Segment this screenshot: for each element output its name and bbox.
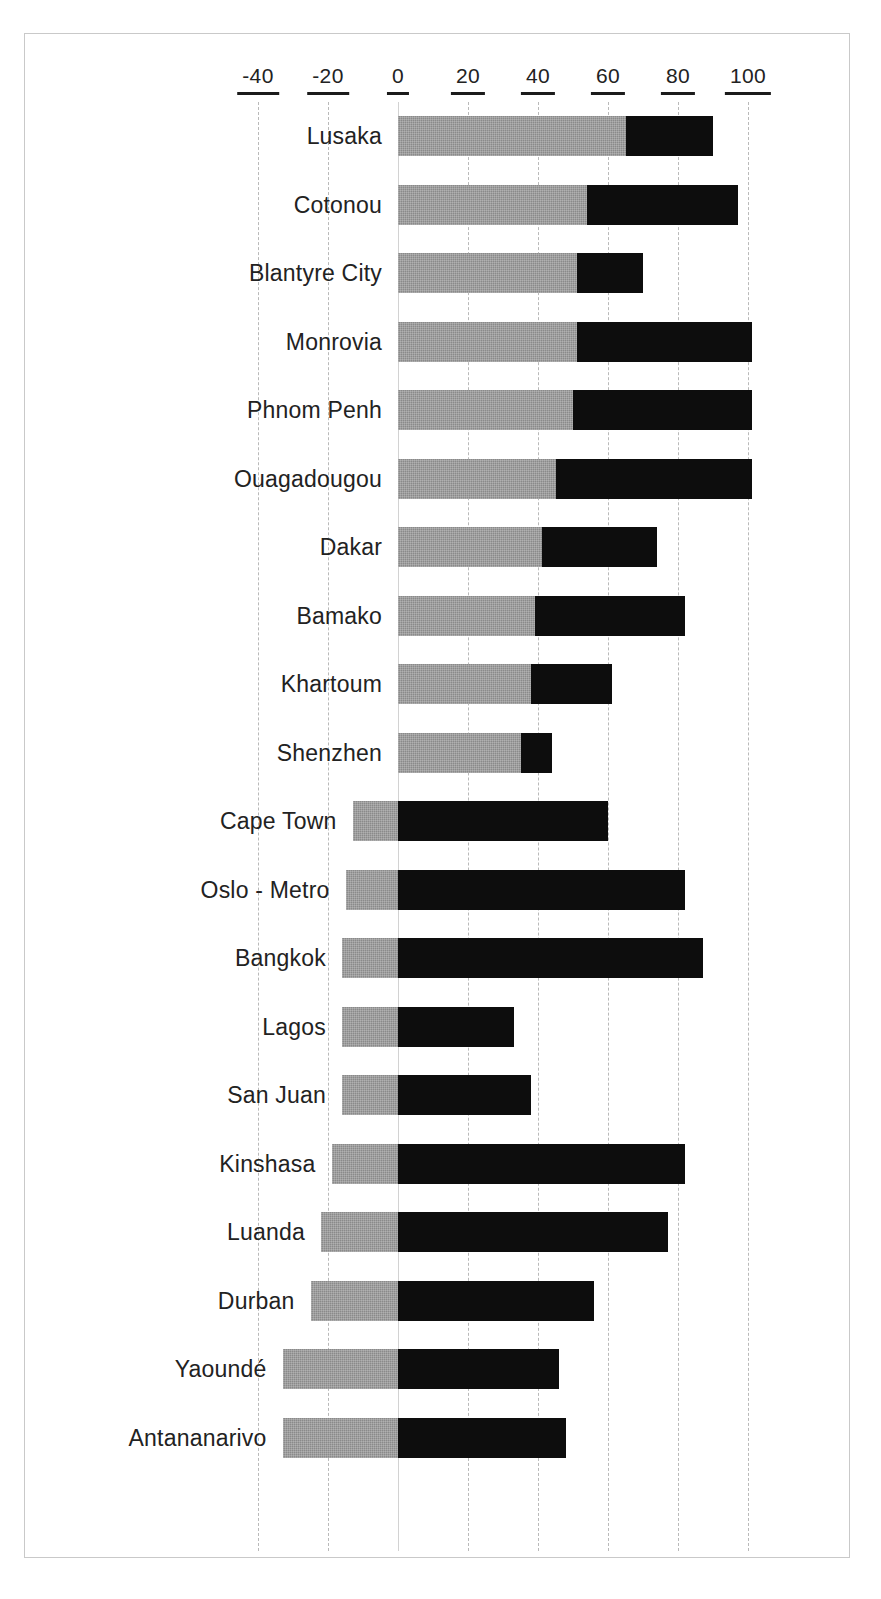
bar-segment-gray [332, 1144, 399, 1184]
stacked-bar [25, 1349, 849, 1389]
bar-row: Lusaka [25, 102, 849, 170]
stacked-bar [25, 801, 849, 841]
axis-tick--20: -20 [307, 64, 349, 98]
stacked-bar [25, 938, 849, 978]
bar-segment-black [398, 1007, 514, 1047]
bar-segment-gray [311, 1281, 399, 1321]
bar-segment-black [398, 1075, 531, 1115]
bar-segment-gray [342, 938, 398, 978]
bar-segment-black [398, 801, 608, 841]
stacked-bar [25, 1418, 849, 1458]
stacked-bar [25, 322, 849, 362]
x-axis: -40-20020406080100 [25, 34, 849, 94]
bar-row: Luanda [25, 1198, 849, 1266]
bar-segment-black [531, 664, 612, 704]
bar-row: San Juan [25, 1061, 849, 1129]
bar-row: Phnom Penh [25, 376, 849, 444]
bar-segment-gray [353, 801, 399, 841]
bar-segment-black [577, 253, 644, 293]
axis-tick-80: 80 [661, 64, 695, 98]
bar-row: Khartoum [25, 650, 849, 718]
bar-segment-black [398, 938, 703, 978]
bar-segment-gray [346, 870, 399, 910]
stacked-bar [25, 733, 849, 773]
bar-segment-gray [283, 1349, 399, 1389]
bar-row: Antananarivo [25, 1404, 849, 1472]
stacked-bar [25, 1281, 849, 1321]
bar-segment-gray [398, 390, 573, 430]
stacked-bar [25, 664, 849, 704]
bar-segment-black [626, 116, 714, 156]
axis-tick-label: 80 [661, 64, 695, 95]
bar-row: Ouagadougou [25, 445, 849, 513]
plot-area: LusakaCotonouBlantyre CityMonroviaPhnom … [25, 102, 849, 1551]
bar-segment-black [398, 1144, 685, 1184]
bar-row: Kinshasa [25, 1130, 849, 1198]
bar-segment-black [398, 870, 685, 910]
bar-segment-gray [398, 733, 521, 773]
stacked-bar [25, 116, 849, 156]
bar-segment-gray [398, 664, 531, 704]
bar-row: Cotonou [25, 171, 849, 239]
bar-segment-black [573, 390, 752, 430]
bar-segment-black [577, 322, 752, 362]
bar-segment-gray [398, 322, 577, 362]
axis-tick-label: -20 [307, 64, 349, 95]
stacked-bar [25, 390, 849, 430]
bar-segment-gray [398, 459, 556, 499]
axis-tick-40: 40 [521, 64, 555, 98]
axis-tick-label: 0 [387, 64, 409, 95]
bar-row: Dakar [25, 513, 849, 581]
bar-segment-black [398, 1349, 559, 1389]
axis-tick-label: 100 [725, 64, 771, 95]
bar-segment-gray [342, 1007, 398, 1047]
axis-tick-0: 0 [387, 64, 409, 98]
bar-segment-gray [398, 185, 587, 225]
stacked-bar [25, 527, 849, 567]
bar-row: Durban [25, 1267, 849, 1335]
stacked-bar [25, 870, 849, 910]
bar-row: Monrovia [25, 308, 849, 376]
bar-row: Bangkok [25, 924, 849, 992]
chart-figure: -40-20020406080100 LusakaCotonouBlantyre… [24, 33, 850, 1558]
stacked-bar [25, 1144, 849, 1184]
bar-segment-black [587, 185, 738, 225]
bar-segment-gray [398, 527, 542, 567]
stacked-bar [25, 1075, 849, 1115]
bar-row: Yaoundé [25, 1335, 849, 1403]
bar-segment-black [535, 596, 686, 636]
stacked-bar [25, 1007, 849, 1047]
bar-segment-gray [283, 1418, 399, 1458]
bar-row: Shenzhen [25, 719, 849, 787]
axis-tick-label: 20 [451, 64, 485, 95]
axis-tick-label: 40 [521, 64, 555, 95]
bar-segment-gray [321, 1212, 398, 1252]
axis-tick-20: 20 [451, 64, 485, 98]
stacked-bar [25, 185, 849, 225]
bar-segment-black [398, 1418, 566, 1458]
axis-tick--40: -40 [237, 64, 279, 98]
stacked-bar [25, 253, 849, 293]
bar-row: Lagos [25, 993, 849, 1061]
axis-tick-label: -40 [237, 64, 279, 95]
stacked-bar [25, 596, 849, 636]
bar-segment-black [398, 1212, 668, 1252]
bar-row: Cape Town [25, 787, 849, 855]
bar-segment-gray [342, 1075, 398, 1115]
stacked-bar [25, 1212, 849, 1252]
bar-segment-black [398, 1281, 594, 1321]
stacked-bar [25, 459, 849, 499]
bar-segment-black [542, 527, 658, 567]
bar-row: Oslo - Metro [25, 856, 849, 924]
bar-segment-black [556, 459, 752, 499]
bar-row: Bamako [25, 582, 849, 650]
axis-tick-100: 100 [725, 64, 771, 98]
bar-row: Blantyre City [25, 239, 849, 307]
bar-segment-gray [398, 253, 577, 293]
bar-segment-black [521, 733, 553, 773]
axis-tick-60: 60 [591, 64, 625, 98]
bar-segment-gray [398, 596, 535, 636]
axis-tick-label: 60 [591, 64, 625, 95]
bar-segment-gray [398, 116, 626, 156]
